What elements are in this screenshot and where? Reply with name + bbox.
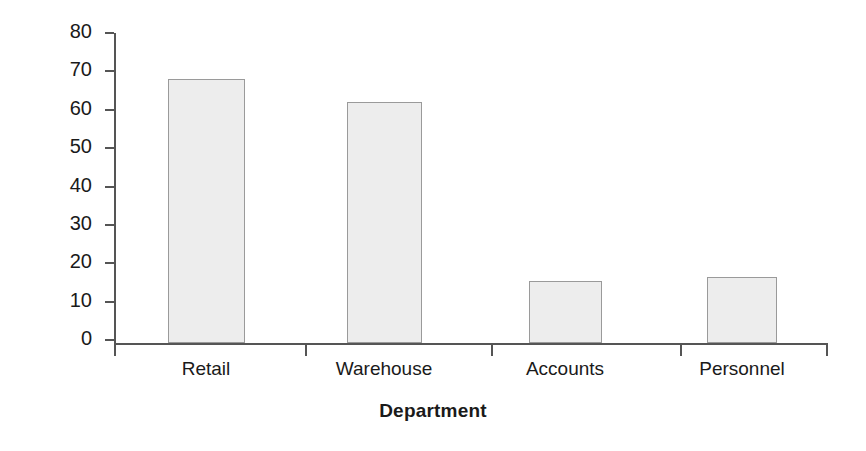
y-tick-label-8: 80 bbox=[32, 21, 92, 41]
x-tick-0 bbox=[114, 345, 116, 356]
x-axis-line bbox=[114, 343, 828, 345]
y-tick-1: 10 bbox=[105, 301, 114, 303]
y-tick-4: 40 bbox=[105, 186, 114, 188]
x-axis-title: Department bbox=[0, 400, 866, 422]
y-tick-0: 0 bbox=[105, 339, 114, 341]
x-category-label-accounts: Accounts bbox=[526, 358, 604, 380]
y-tick-label-3: 30 bbox=[32, 213, 92, 233]
y-tick-5: 50 bbox=[105, 147, 114, 149]
y-tick-label-7: 70 bbox=[32, 59, 92, 79]
y-tick-label-2: 20 bbox=[32, 251, 92, 271]
y-tick-7: 70 bbox=[105, 70, 114, 72]
x-tick-3 bbox=[680, 345, 682, 356]
bar-personnel[interactable] bbox=[707, 277, 777, 343]
y-tick-label-6: 60 bbox=[32, 98, 92, 118]
x-tick-2 bbox=[491, 345, 493, 356]
y-tick-6: 60 bbox=[105, 109, 114, 111]
y-tick-label-0: 0 bbox=[32, 328, 92, 348]
bar-retail[interactable] bbox=[168, 79, 245, 343]
y-tick-3: 30 bbox=[105, 224, 114, 226]
x-category-label-personnel: Personnel bbox=[699, 358, 785, 380]
y-tick-2: 20 bbox=[105, 262, 114, 264]
y-axis-line bbox=[114, 33, 116, 346]
bar-accounts[interactable] bbox=[529, 281, 602, 343]
bar-warehouse[interactable] bbox=[347, 102, 422, 343]
y-tick-label-5: 50 bbox=[32, 136, 92, 156]
bar-chart: Frequency 80 70 60 50 40 30 20 10 0 bbox=[0, 0, 866, 451]
y-tick-8: 80 bbox=[105, 32, 114, 34]
x-tick-1 bbox=[305, 345, 307, 356]
y-tick-label-1: 10 bbox=[32, 290, 92, 310]
plot-area: 80 70 60 50 40 30 20 10 0 bbox=[114, 33, 828, 345]
x-tick-4 bbox=[826, 345, 828, 356]
x-category-label-warehouse: Warehouse bbox=[336, 358, 432, 380]
y-tick-label-4: 40 bbox=[32, 175, 92, 195]
x-category-label-retail: Retail bbox=[182, 358, 231, 380]
